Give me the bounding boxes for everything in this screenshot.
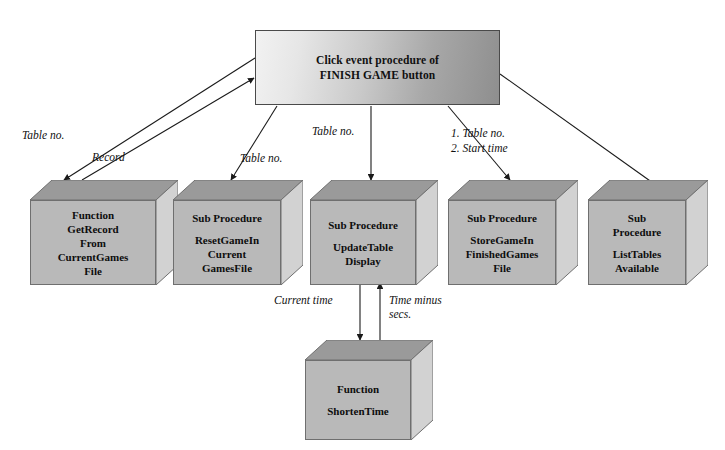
module-box-reset-game: Sub Procedure ResetGameIn Current GamesF… [173,180,303,285]
module-front-face: Sub Procedure StoreGameIn FinishedGames … [448,200,556,285]
module-header-store-game: Sub Procedure [467,212,537,224]
module-header-list-tables-line1: Sub [628,212,646,224]
label-spacer [328,232,398,240]
module-label-update-table-display: Sub Procedure UpdateTable Display [326,218,400,268]
module-label-store-game: Sub Procedure StoreGameIn FinishedGames … [464,211,541,275]
module-header-update-table: Sub Procedure [328,219,398,231]
label-spacer [466,225,539,233]
module-front-face: Sub Procedure ListTables Available [588,200,686,285]
module-label-get-record: Function GetRecord From CurrentGames Fil… [56,208,131,278]
label-spacer [327,396,389,404]
label-spacer [192,225,262,233]
module-name-line: UpdateTable [333,241,393,253]
root-label-line1: Click event procedure of [316,54,439,66]
module-label-reset-game: Sub Procedure ResetGameIn Current GamesF… [190,211,264,275]
module-header-get-record: Function [72,209,114,221]
module-name-line: ResetGameIn [195,234,259,246]
module-box-store-game: Sub Procedure StoreGameIn FinishedGames … [448,180,578,285]
module-name-line: Display [345,255,380,267]
module-name-line: GetRecord [67,223,118,235]
module-label-shorten-time: Function ShortenTime [325,382,391,418]
module-name-line: From [80,237,106,249]
root-process-label: Click event procedure of FINISH GAME but… [316,53,439,83]
module-header-list-tables-line2: Procedure [613,226,661,238]
module-box-update-table-display: Sub Procedure UpdateTable Display [310,180,438,285]
module-name-line: Available [615,262,659,274]
edge-getrecord-to-root [82,78,254,180]
root-process-box: Click event procedure of FINISH GAME but… [255,30,500,105]
edge-root-to-resetgame [231,106,277,180]
module-name-line: GamesFile [202,262,252,274]
module-name-line: File [84,265,102,277]
module-name-line: FinishedGames [466,248,539,260]
edge-label-table-no-4: 1. Table no. [451,126,505,140]
module-front-face: Sub Procedure ResetGameIn Current GamesF… [173,200,281,285]
module-box-get-record: Function GetRecord From CurrentGames Fil… [30,180,178,285]
module-name-line: File [493,262,511,274]
edge-label-table-no-3: Table no. [312,124,354,138]
label-spacer [613,239,662,247]
module-header-reset-game: Sub Procedure [192,212,262,224]
module-box-shorten-time: Function ShortenTime [305,340,433,440]
module-front-face: Sub Procedure UpdateTable Display [310,200,416,285]
edge-label-start-time: 2. Start time [451,141,508,155]
module-name-line: Current [208,248,246,260]
root-label-line2: FINISH GAME button [320,69,436,81]
structure-chart-diagram: Click event procedure of FINISH GAME but… [0,0,725,450]
module-front-face: Function ShortenTime [305,360,411,440]
edge-label-table-no-2: Table no. [240,151,282,165]
edge-label-current-time: Current time [274,293,333,307]
edge-root-to-listtables [500,74,653,183]
module-name-line: ListTables [613,248,662,260]
module-name-line: StoreGameIn [470,234,533,246]
module-front-face: Function GetRecord From CurrentGames Fil… [30,200,156,285]
edge-label-time-minus-secs: Time minus secs. [389,293,455,321]
module-header-shorten-time: Function [337,383,379,395]
module-box-list-tables: Sub Procedure ListTables Available [588,180,708,285]
module-name-line: ShortenTime [327,405,389,417]
edge-label-record: Record [92,150,125,164]
module-name-line: CurrentGames [58,251,129,263]
module-label-list-tables: Sub Procedure ListTables Available [611,211,664,275]
edge-label-table-no-1: Table no. [22,128,64,142]
